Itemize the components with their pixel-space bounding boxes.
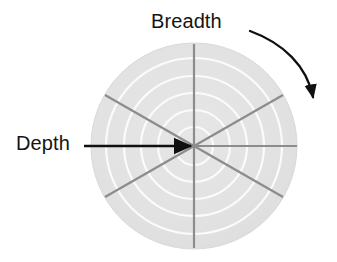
polar-diagram-figure: Breadth Depth [0,0,337,262]
diagram-canvas [0,0,337,262]
breadth-label: Breadth [151,10,222,33]
depth-label: Depth [16,132,70,155]
